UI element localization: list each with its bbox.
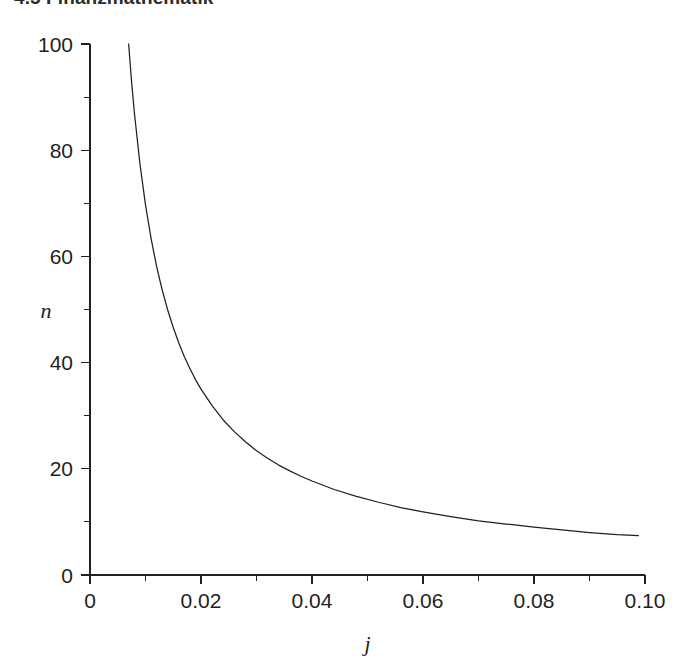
y-tick-label: 20 xyxy=(50,457,73,480)
y-tick-label: 60 xyxy=(50,245,73,268)
y-tick-label: 40 xyxy=(50,351,73,374)
y-tick-label: 80 xyxy=(50,139,73,162)
x-tick-label: 0.10 xyxy=(625,589,666,612)
running-header-text: 4.5 Finanzmathematik xyxy=(14,0,213,9)
axis-group xyxy=(90,44,645,575)
data-curve xyxy=(129,44,639,536)
running-header: 4.5 Finanzmathematik xyxy=(0,0,683,11)
x-tick-label: 0 xyxy=(84,589,96,612)
figure-page: 4.5 Finanzmathematik 020406080100 00.020… xyxy=(0,0,683,664)
major-tick-group xyxy=(81,44,645,584)
y-axis-title: n xyxy=(41,298,52,323)
x-tick-label-group: 00.020.040.060.080.10 xyxy=(84,589,665,612)
y-tick-label: 0 xyxy=(61,564,73,587)
chart-svg: 020406080100 00.020.040.060.080.10 n j xyxy=(0,18,683,658)
y-tick-label: 100 xyxy=(38,33,73,56)
x-tick-label: 0.06 xyxy=(403,589,444,612)
x-tick-label: 0.02 xyxy=(181,589,222,612)
minor-tick-group xyxy=(84,97,590,581)
x-axis-title: j xyxy=(361,631,370,656)
x-tick-label: 0.08 xyxy=(514,589,555,612)
x-tick-label: 0.04 xyxy=(292,589,333,612)
chart-figure: 020406080100 00.020.040.060.080.10 n j xyxy=(0,18,683,658)
